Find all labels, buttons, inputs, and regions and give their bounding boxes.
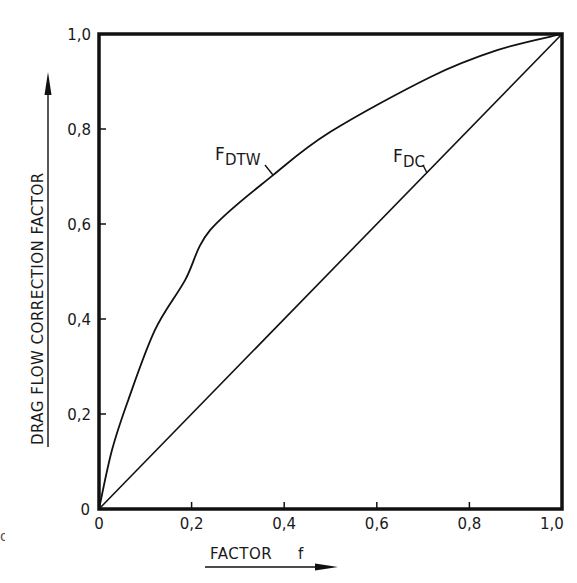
y-tick-label: 0,4 (67, 311, 91, 329)
y-tick-label: 0,6 (67, 216, 91, 234)
x-axis-arrow-icon (205, 564, 338, 571)
y-tick-label: 0 (80, 501, 90, 519)
y-axis-title: DRAG FLOW CORRECTION FACTOR (29, 172, 47, 445)
label-fdc-main: F (393, 146, 403, 166)
x-tick-labels: 0 0,2 0,4 0,6 0,8 1,0 (94, 515, 564, 533)
x-tick-label: 0,6 (365, 515, 389, 533)
x-tick-label: 0,4 (272, 515, 296, 533)
x-tick-label: 0 (94, 515, 104, 533)
y-tick-label: 0,2 (67, 406, 91, 424)
chart: 0 0,2 0,4 0,6 0,8 1,0 0 0,2 0,4 0,6 0,8 … (0, 0, 577, 583)
x-tick-label: 0,2 (180, 515, 204, 533)
x-axis-title-symbol: f (298, 545, 304, 563)
x-tick-label: 0,8 (457, 515, 481, 533)
x-axis-title-text: FACTOR (210, 545, 272, 563)
curve-fdc (99, 34, 562, 509)
page-artifact-glyph: g (0, 528, 5, 542)
label-fdtw-main: F (215, 144, 225, 164)
x-tick-label: 1,0 (540, 515, 564, 533)
label-fdc-sub: DC (403, 153, 425, 171)
y-tick-labels: 0 0,2 0,4 0,6 0,8 1,0 (67, 26, 91, 519)
label-fdc: F DC (393, 146, 427, 173)
y-tick-label: 1,0 (67, 26, 91, 44)
label-fdtw-sub: DTW (225, 151, 261, 169)
x-axis-title: FACTOR f (210, 545, 304, 563)
y-tick-label: 0,8 (67, 121, 91, 139)
label-fdtw: F DTW (215, 144, 273, 175)
